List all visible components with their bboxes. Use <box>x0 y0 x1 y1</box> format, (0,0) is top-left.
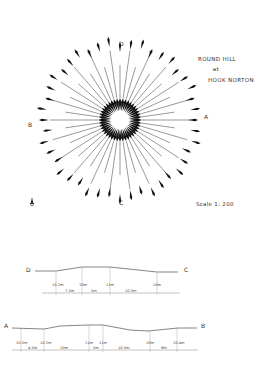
ab-height-4: 11m <box>99 341 108 345</box>
ab-dist-5: 8m <box>161 346 167 350</box>
section-ab-start: A <box>4 322 8 329</box>
ab-height-5: 10m <box>146 341 155 345</box>
ab-height-6: 10.4m <box>173 341 185 345</box>
section-ab-end: B <box>201 322 205 329</box>
ab-height-1: 10.5m <box>16 341 28 345</box>
ab-height-2: 10.2m <box>40 341 52 345</box>
ab-height-3: 11m <box>85 341 94 345</box>
section-ab-profile: 10.5m 10.2m 11m 11m 10m 10.4m 4.5m 10m 5… <box>0 0 273 385</box>
ab-dist-2: 10m <box>60 346 69 350</box>
ab-dist-4: 10.5m <box>118 346 130 350</box>
ab-dist-1: 4.5m <box>28 346 38 350</box>
ab-dist-3: 5m <box>93 346 99 350</box>
